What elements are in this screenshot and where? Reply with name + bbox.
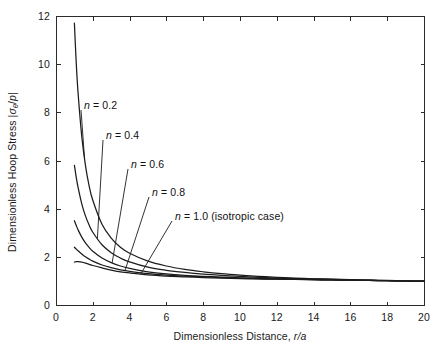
y-axis-p-symbol: p xyxy=(6,95,18,101)
curve-label-n-04: n = 0.4 xyxy=(106,129,139,141)
x-tick-label-0: 0 xyxy=(53,311,59,323)
x-tick-label-16: 16 xyxy=(344,311,356,323)
y-tick-label-8: 8 xyxy=(44,106,50,118)
curve-label-n-08: n = 0.8 xyxy=(152,186,185,198)
y-tick-label-6: 6 xyxy=(44,155,50,167)
y-tick-label-10: 10 xyxy=(38,58,50,70)
curve-label-n-10: n = 1.0 (isotropic case) xyxy=(175,210,284,222)
curve-label-n-02: n = 0.2 xyxy=(84,99,117,111)
y-axis-slash: / xyxy=(6,101,18,104)
x-tick-label-12: 12 xyxy=(271,311,283,323)
x-tick-label-20: 20 xyxy=(418,311,430,323)
x-tick-label-10: 10 xyxy=(234,311,246,323)
leader-line-n-06 xyxy=(112,169,128,263)
curve-label-value-n-02: = 0.2 xyxy=(90,99,117,111)
x-tick-label-18: 18 xyxy=(381,311,393,323)
curve-0-2 xyxy=(74,23,424,281)
y-axis-sigma-symbol: σ xyxy=(6,108,18,114)
y-tick-label-4: 4 xyxy=(44,203,50,215)
x-axis-title-text: Dimensionless Distance, xyxy=(174,330,291,342)
curve-label-value-n-08: = 0.8 xyxy=(158,186,185,198)
curve-label-value-n-06: = 0.6 xyxy=(137,158,164,170)
y-axis-bar-close: | xyxy=(6,92,18,95)
y-axis-title: Dimensionless Hoop Stress |σθ/p| xyxy=(6,92,20,252)
y-tick-label-2: 2 xyxy=(44,251,50,263)
y-axis-theta-subscript: θ xyxy=(11,104,20,108)
data-curves xyxy=(74,23,424,281)
y-tick-label-0: 0 xyxy=(44,299,50,311)
curve-label-value-n-04: = 0.4 xyxy=(112,129,139,141)
figure-container: 02468101214161820 024681012 Dimensionles… xyxy=(0,0,441,355)
hoop-stress-line-chart xyxy=(0,0,441,355)
leader-line-n-08 xyxy=(125,197,149,271)
x-tick-label-4: 4 xyxy=(127,311,133,323)
x-tick-label-2: 2 xyxy=(90,311,96,323)
curve-label-value-n-10: = 1.0 (isotropic case) xyxy=(181,210,284,222)
curve-label-n-06: n = 0.6 xyxy=(131,158,164,170)
x-tick-label-6: 6 xyxy=(163,311,169,323)
x-axis-title: Dimensionless Distance, r/a xyxy=(174,330,307,342)
x-axis-title-symbol: r/a xyxy=(294,330,307,342)
y-tick-label-12: 12 xyxy=(38,10,50,22)
x-tick-label-8: 8 xyxy=(200,311,206,323)
x-tick-label-14: 14 xyxy=(308,311,320,323)
y-axis-title-text: Dimensionless Hoop Stress | xyxy=(6,115,18,252)
